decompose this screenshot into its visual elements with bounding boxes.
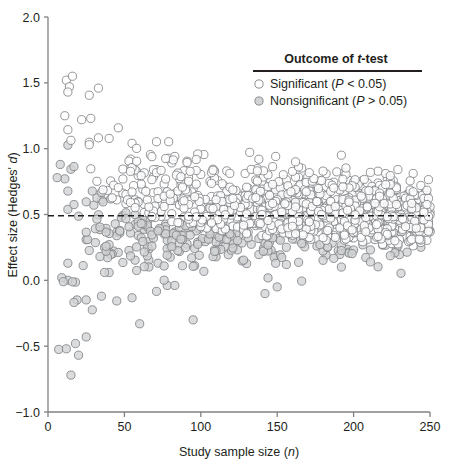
y-axis-ticks: −1.0−0.50.00.51.01.52.0 — [15, 11, 48, 420]
data-point-significant — [243, 230, 251, 238]
data-point-significant — [192, 155, 200, 163]
data-point-nonsignificant — [210, 247, 218, 255]
data-point-nonsignificant — [160, 276, 168, 284]
data-point-nonsignificant — [298, 239, 306, 247]
data-point-significant — [317, 210, 325, 218]
data-point-nonsignificant — [261, 289, 269, 297]
data-point-nonsignificant — [53, 174, 61, 182]
data-point-significant — [148, 176, 156, 184]
data-point-nonsignificant — [59, 278, 67, 286]
data-point-significant — [265, 191, 273, 199]
data-point-significant — [183, 158, 191, 166]
data-point-significant — [392, 200, 400, 208]
data-point-significant — [412, 224, 420, 232]
data-point-significant — [64, 126, 72, 134]
data-point-nonsignificant — [85, 246, 93, 254]
data-point-significant — [191, 193, 199, 201]
data-point-significant — [148, 153, 156, 161]
data-point-significant — [287, 188, 295, 196]
data-point-significant — [339, 183, 347, 191]
x-tick-label: 100 — [190, 420, 211, 434]
data-point-nonsignificant — [91, 239, 99, 247]
data-point-significant — [253, 177, 261, 185]
data-point-significant — [291, 230, 299, 238]
data-point-nonsignificant — [160, 262, 168, 270]
data-point-nonsignificant — [154, 227, 162, 235]
data-point-significant — [258, 210, 266, 218]
data-point-significant — [174, 219, 182, 227]
data-point-significant — [114, 184, 122, 192]
data-point-nonsignificant — [82, 198, 90, 206]
data-point-significant — [319, 167, 327, 175]
data-point-significant — [391, 237, 399, 245]
data-point-nonsignificant — [96, 223, 104, 231]
data-point-nonsignificant — [148, 242, 156, 250]
data-point-nonsignificant — [294, 258, 302, 266]
data-point-significant — [401, 222, 409, 230]
data-point-significant — [255, 155, 263, 163]
data-point-significant — [345, 198, 353, 206]
legend-item-label: Significant (P < 0.05) — [270, 77, 386, 91]
data-point-significant — [374, 167, 382, 175]
x-axis-title: Study sample size (n) — [179, 445, 299, 459]
data-point-significant — [386, 172, 394, 180]
data-point-significant — [162, 154, 170, 162]
data-point-significant — [165, 138, 173, 146]
data-point-significant — [342, 164, 350, 172]
data-point-significant — [423, 200, 431, 208]
data-point-significant — [278, 208, 286, 216]
data-point-significant — [253, 167, 261, 175]
data-point-nonsignificant — [366, 246, 374, 254]
data-point-significant — [229, 194, 237, 202]
data-point-significant — [209, 166, 217, 174]
data-point-significant — [333, 168, 341, 176]
x-tick-label: 150 — [267, 420, 288, 434]
x-tick-label: 50 — [117, 420, 131, 434]
data-point-significant — [85, 91, 93, 99]
data-point-nonsignificant — [61, 175, 69, 183]
data-point-significant — [78, 116, 86, 124]
data-point-nonsignificant — [195, 251, 203, 259]
data-point-nonsignificant — [56, 160, 64, 168]
data-point-significant — [131, 204, 139, 212]
data-point-significant — [85, 141, 93, 149]
data-point-significant — [229, 186, 237, 194]
data-point-nonsignificant — [82, 333, 90, 341]
y-tick-label: 2.0 — [23, 11, 40, 25]
data-point-significant — [330, 184, 338, 192]
data-point-significant — [87, 114, 95, 122]
x-tick-label: 0 — [45, 420, 52, 434]
data-point-nonsignificant — [229, 244, 237, 252]
data-point-significant — [415, 235, 423, 243]
data-point-nonsignificant — [113, 297, 121, 305]
data-point-nonsignificant — [273, 283, 281, 291]
data-point-significant — [331, 202, 339, 210]
data-point-nonsignificant — [282, 260, 290, 268]
data-point-significant — [186, 167, 194, 175]
scatter-plot-canvas: −1.0−0.50.00.51.01.52.0 050100150200250 … — [0, 0, 450, 468]
data-point-significant — [374, 232, 382, 240]
data-point-nonsignificant — [96, 252, 104, 260]
data-point-significant — [424, 227, 432, 235]
data-point-significant — [243, 210, 251, 218]
data-point-nonsignificant — [337, 263, 345, 271]
data-point-significant — [67, 136, 75, 144]
data-point-nonsignificant — [70, 200, 78, 208]
data-point-significant — [299, 231, 307, 239]
data-point-significant — [424, 176, 432, 184]
data-point-significant — [68, 72, 76, 80]
data-point-significant — [357, 192, 365, 200]
data-point-significant — [371, 199, 379, 207]
data-point-significant — [343, 206, 351, 214]
data-point-nonsignificant — [140, 248, 148, 256]
data-point-nonsignificant — [70, 298, 78, 306]
data-point-significant — [291, 158, 299, 166]
data-point-nonsignificant — [119, 258, 127, 266]
data-point-significant — [281, 200, 289, 208]
data-point-nonsignificant — [330, 254, 338, 262]
data-point-significant — [93, 177, 101, 185]
data-point-significant — [108, 194, 116, 202]
y-tick-label: 0.0 — [23, 274, 40, 288]
data-point-significant — [351, 211, 359, 219]
data-point-significant — [269, 199, 277, 207]
